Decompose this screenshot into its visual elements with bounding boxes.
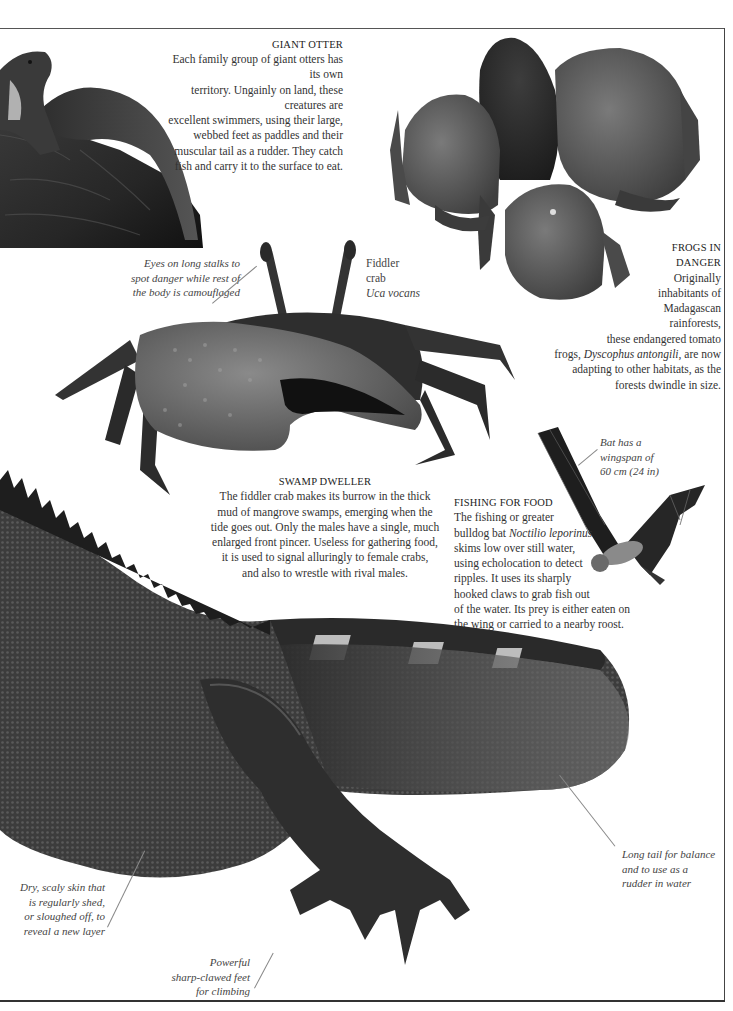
top-border-rule	[0, 28, 725, 29]
label-line: Fiddler	[366, 256, 446, 271]
iguana-skin-label: Dry, scaly skin that is regularly shed, …	[0, 880, 105, 938]
label-line: or sloughed off, to	[0, 909, 105, 924]
giant-otter-body: Each family group of giant otters has it…	[160, 52, 343, 174]
label-line: crab	[366, 271, 446, 286]
text-line: fish and carry it to the surface to eat.	[160, 159, 343, 174]
frog-species-name: Dyscophus antongili	[584, 348, 679, 360]
crab-species-name: Uca vocans	[366, 286, 446, 301]
label-line: rudder in water	[622, 876, 732, 891]
label-line: is regularly shed,	[0, 895, 105, 910]
label-line: Dry, scaly skin that	[0, 880, 105, 895]
label-line: reveal a new layer	[0, 924, 105, 939]
text-line: excellent swimmers, using their large,	[160, 113, 343, 128]
label-line: for climbing	[150, 984, 250, 999]
label-line: Powerful	[150, 955, 250, 970]
label-line: sharp-clawed feet	[150, 970, 250, 985]
fiddler-crab-label: Fiddler crab Uca vocans	[366, 256, 446, 301]
text-fragment: frogs,	[554, 348, 583, 360]
book-page: GIANT OTTER Each family group of giant o…	[0, 0, 733, 1011]
label-line: Long tail for balance	[622, 847, 732, 862]
text-line: Each family group of giant otters has it…	[160, 52, 343, 83]
label-line: Eyes on long stalks to	[100, 256, 240, 271]
iguana-tail-label: Long tail for balance and to use as a ru…	[622, 847, 732, 891]
label-line: Bat has a	[600, 435, 700, 450]
label-line: spot danger while rest of	[100, 271, 240, 286]
text-fragment: , are now	[679, 348, 721, 360]
label-line: and to use as a	[622, 862, 732, 877]
giant-otter-text-block: GIANT OTTER	[200, 37, 343, 52]
text-line: territory. Ungainly on land, these creat…	[160, 83, 343, 114]
iguana-feet-label: Powerful sharp-clawed feet for climbing	[150, 955, 250, 999]
crab-eyes-label: Eyes on long stalks to spot danger while…	[100, 256, 240, 300]
giant-otter-heading: GIANT OTTER	[200, 37, 343, 52]
bottom-border-rule	[0, 1000, 725, 1002]
label-line: wingspan of	[600, 450, 700, 465]
text-line: muscular tail as a rudder. They catch	[160, 144, 343, 159]
text-line: webbed feet as paddles and their	[160, 128, 343, 143]
